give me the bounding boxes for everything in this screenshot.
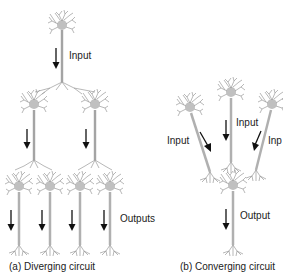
arrow-down-icon	[69, 210, 76, 231]
arrow-down-icon	[223, 209, 230, 230]
caption-diverging: (a) Diverging circuit	[9, 262, 95, 272]
arrow-down-icon	[39, 210, 46, 231]
figure-canvas	[0, 0, 283, 276]
label-input: Input	[69, 51, 91, 61]
neural-circuits-figure: Input Outputs (a) Diverging circuit Inpu…	[0, 0, 283, 276]
caption-converging: (b) Converging circuit	[180, 262, 275, 272]
arrow-down-left-icon	[252, 131, 261, 151]
arrows-diverging	[8, 48, 108, 231]
label-outputs: Outputs	[120, 214, 155, 224]
converging-circuit	[176, 77, 283, 256]
middle-neuron-left	[15, 89, 52, 170]
label-input-center: Input	[236, 118, 258, 128]
arrow-down-icon	[101, 210, 108, 231]
arrow-down-icon	[24, 129, 31, 149]
output-neuron-2	[36, 171, 64, 256]
output-neuron-3	[66, 171, 94, 256]
arrow-down-icon	[83, 129, 90, 149]
arrow-down-icon	[223, 120, 230, 141]
label-input-right: Inp	[268, 136, 282, 146]
output-neuron-1	[5, 171, 33, 256]
label-output: Output	[240, 211, 270, 221]
arrow-down-icon	[8, 210, 15, 231]
label-input-left: Input	[167, 136, 189, 146]
middle-neuron-right	[78, 89, 112, 170]
arrow-down-icon	[53, 48, 60, 69]
diverging-circuit	[5, 10, 124, 256]
